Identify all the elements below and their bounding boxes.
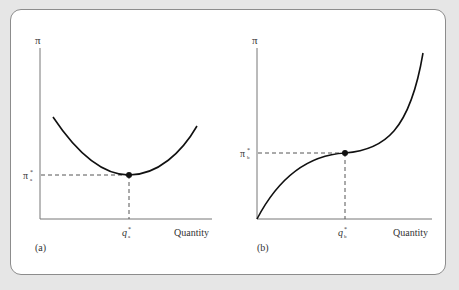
- svg-text:*: *: [30, 169, 33, 175]
- svg-text:*: *: [128, 226, 131, 232]
- profit-curve-a: [53, 117, 197, 175]
- y-axis-label-a: π: [35, 34, 41, 46]
- svg-text:π: π: [23, 170, 28, 181]
- svg-text:*: *: [344, 226, 347, 232]
- q-star-b-label: q * b: [338, 226, 347, 239]
- minimum-point-a: [126, 172, 132, 178]
- svg-text:q: q: [338, 227, 343, 238]
- svg-text:π: π: [240, 148, 245, 159]
- svg-text:b: b: [344, 234, 347, 239]
- pi-star-b-label: π * b: [240, 147, 250, 160]
- pi-star-a-label: π * a: [23, 169, 33, 182]
- svg-text:q: q: [122, 227, 127, 238]
- svg-text:b: b: [247, 155, 250, 160]
- profit-curve-b: [257, 53, 423, 219]
- panel-label-a: (a): [35, 242, 46, 254]
- q-star-a-label: q * a: [122, 226, 131, 239]
- x-axis-label-b: Quantity: [393, 227, 428, 238]
- svg-text:*: *: [247, 147, 250, 153]
- x-axis-label-a: Quantity: [174, 227, 209, 238]
- panel-a: π π * a q * a Quantity (a): [23, 34, 212, 254]
- panel-b: π π * b q * b Quantity (b): [240, 34, 432, 254]
- panel-label-b: (b): [257, 242, 269, 254]
- profit-curves-diagram: π π * a q * a Quantity (a) π π * b: [0, 0, 459, 290]
- svg-text:a: a: [30, 177, 33, 182]
- y-axis-label-b: π: [252, 34, 258, 46]
- svg-text:a: a: [128, 234, 131, 239]
- inflection-point-b: [342, 150, 348, 156]
